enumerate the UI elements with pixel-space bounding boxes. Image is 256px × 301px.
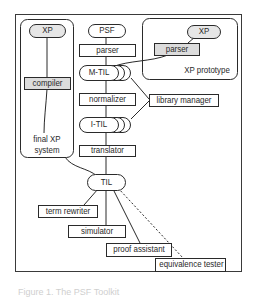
equivalence-tester-label: equivalence tester: [159, 259, 221, 270]
normalizer-label: normalizer: [82, 94, 132, 105]
xp-left-label: XP: [31, 25, 64, 36]
final-xp-system-label-1: final XP: [23, 134, 71, 145]
til-label: TIL: [89, 177, 123, 188]
i-til-label: I-TIL: [81, 119, 116, 130]
final-xp-system-label-2: system: [23, 145, 71, 156]
translator-label: translator: [82, 145, 132, 156]
m-til-label: M-TIL: [81, 67, 116, 78]
library-manager-label: library manager: [153, 95, 215, 106]
xp-prototype-label: XP prototype: [180, 65, 235, 76]
compiler-label: compiler: [27, 78, 68, 89]
parser-right-label: parser: [157, 44, 197, 55]
simulator-label: simulator: [71, 226, 122, 237]
parser-center-label: parser: [82, 45, 132, 56]
proof-assistant-label: proof assistant: [110, 244, 168, 255]
psf-label: PSF: [90, 25, 123, 36]
xp-right-label: XP: [189, 26, 219, 37]
term-rewriter-label: term rewriter: [42, 206, 95, 217]
figure-caption: Figure 1. The PSF Toolkit: [18, 287, 119, 297]
